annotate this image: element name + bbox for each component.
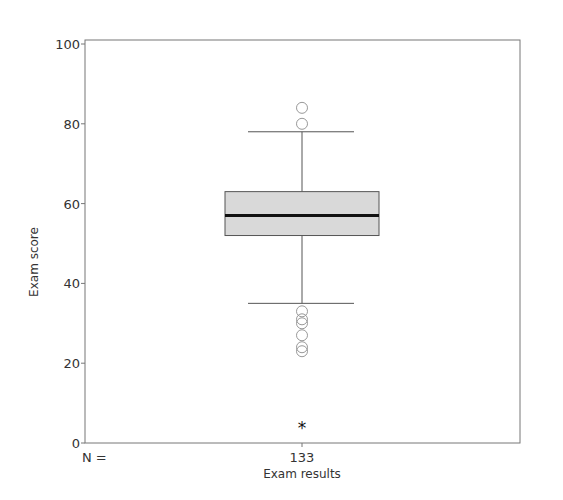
extreme-marker: * <box>298 418 307 438</box>
y-tick-label: 80 <box>63 117 80 132</box>
y-tick-label: 0 <box>72 436 80 451</box>
boxplot-chart: 020406080100 Exam score * N = 133 Exam r… <box>0 0 563 500</box>
y-tick-label: 60 <box>63 197 80 212</box>
y-tick-label: 20 <box>63 356 80 371</box>
x-axis-title: Exam results <box>263 467 341 481</box>
y-tick-label: 100 <box>55 37 80 52</box>
n-value: 133 <box>290 450 315 465</box>
y-tick-label: 40 <box>63 276 80 291</box>
iqr-box <box>225 192 379 236</box>
y-axis-title: Exam score <box>27 227 41 297</box>
n-label: N = <box>82 450 107 465</box>
